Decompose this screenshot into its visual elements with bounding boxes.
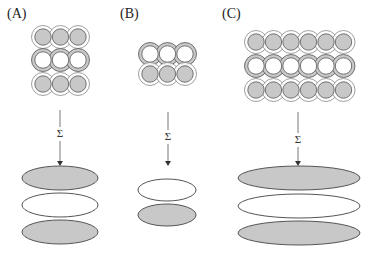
orbital-core-white	[142, 46, 158, 62]
orbital-core-gray	[177, 66, 193, 82]
orbital-lobe-gray	[138, 204, 196, 226]
arrowhead-icon	[57, 161, 63, 166]
orbital-core-gray	[52, 29, 68, 45]
orbital-core-gray	[300, 82, 316, 98]
orbital-lobe-white	[138, 179, 196, 201]
lattice-row-inner-gray	[32, 26, 90, 49]
orbital-lobe-white	[22, 193, 98, 217]
orbital-core-gray	[159, 66, 175, 82]
orbital-core-gray	[283, 82, 299, 98]
lattice-row-inner-gray	[245, 31, 356, 54]
orbital-core-white	[300, 58, 316, 74]
orbital-core-white	[159, 46, 175, 62]
orbital-core-gray	[52, 76, 68, 92]
panel-c: (C)Σ	[222, 6, 360, 245]
orbital-lobe-gray	[22, 166, 98, 190]
sigma-symbol: Σ	[57, 127, 63, 139]
arrowhead-icon	[165, 161, 171, 166]
orbital-core-white	[70, 52, 86, 68]
molecular-orbital-stack	[22, 166, 98, 244]
orbital-lobe-gray	[22, 220, 98, 244]
orbital-core-gray	[265, 82, 281, 98]
orbital-lattice	[245, 31, 356, 102]
summation-arrow: Σ	[295, 112, 301, 166]
lattice-row-inner-gray	[32, 73, 90, 96]
lattice-row-ring-gray	[139, 43, 197, 66]
orbital-summation-diagram: (A)Σ (B)Σ (C)Σ	[0, 0, 370, 256]
orbital-core-gray	[318, 34, 334, 50]
orbital-core-white	[248, 58, 264, 74]
orbital-core-white	[265, 58, 281, 74]
orbital-lobe-gray	[238, 166, 360, 190]
orbital-lattice	[32, 26, 90, 96]
orbital-core-white	[335, 58, 351, 74]
lattice-row-inner-gray	[139, 63, 197, 86]
sigma-symbol: Σ	[295, 133, 301, 145]
orbital-core-gray	[300, 34, 316, 50]
orbital-core-gray	[70, 29, 86, 45]
panel-label-c: (C)	[222, 6, 241, 22]
orbital-core-gray	[248, 34, 264, 50]
molecular-orbital-stack	[238, 166, 360, 245]
orbital-core-gray	[283, 34, 299, 50]
arrowhead-icon	[295, 161, 301, 166]
orbital-core-gray	[248, 82, 264, 98]
lattice-row-inner-gray	[245, 79, 356, 102]
orbital-lattice	[139, 43, 197, 86]
panel-a: (A)Σ	[7, 6, 98, 244]
lattice-row-ring-gray	[32, 49, 90, 72]
orbital-core-gray	[142, 66, 158, 82]
panel-b: (B)Σ	[120, 6, 197, 226]
orbital-lobe-white	[238, 194, 360, 218]
summation-arrow: Σ	[57, 110, 63, 166]
panel-label-a: (A)	[7, 6, 27, 22]
molecular-orbital-stack	[138, 179, 196, 226]
orbital-core-gray	[35, 29, 51, 45]
orbital-core-white	[318, 58, 334, 74]
orbital-core-white	[283, 58, 299, 74]
orbital-core-white	[52, 52, 68, 68]
orbital-core-gray	[318, 82, 334, 98]
panel-label-b: (B)	[120, 6, 139, 22]
orbital-core-gray	[265, 34, 281, 50]
orbital-lobe-gray	[238, 221, 360, 245]
orbital-core-gray	[35, 76, 51, 92]
orbital-core-gray	[335, 82, 351, 98]
orbital-core-white	[35, 52, 51, 68]
orbital-core-white	[177, 46, 193, 62]
orbital-core-gray	[335, 34, 351, 50]
sigma-symbol: Σ	[165, 130, 171, 142]
lattice-row-ring-gray	[245, 55, 356, 78]
summation-arrow: Σ	[165, 112, 171, 166]
orbital-core-gray	[70, 76, 86, 92]
